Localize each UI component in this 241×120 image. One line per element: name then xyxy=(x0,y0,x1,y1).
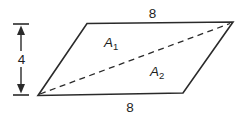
area-label-a1-base: A xyxy=(103,35,113,50)
geometry-figure: 8 8 4 A1 A2 xyxy=(0,0,241,120)
arrow-up-icon xyxy=(17,26,25,36)
area-label-a2: A2 xyxy=(149,64,164,81)
arrow-down-icon xyxy=(17,84,25,94)
area-label-a1: A1 xyxy=(103,35,118,52)
parallelogram-outline xyxy=(38,22,233,96)
diagonal-dashed-line xyxy=(40,24,230,95)
top-side-length-label: 8 xyxy=(149,6,157,21)
area-label-a1-subscript: 1 xyxy=(113,41,118,52)
parallelogram-diagram: 8 8 4 A1 A2 xyxy=(0,0,241,120)
height-length-label: 4 xyxy=(18,52,26,67)
bottom-side-length-label: 8 xyxy=(126,100,134,115)
area-label-a2-base: A xyxy=(149,64,159,79)
diagram-lines xyxy=(13,22,233,96)
area-label-a2-subscript: 2 xyxy=(159,70,164,81)
